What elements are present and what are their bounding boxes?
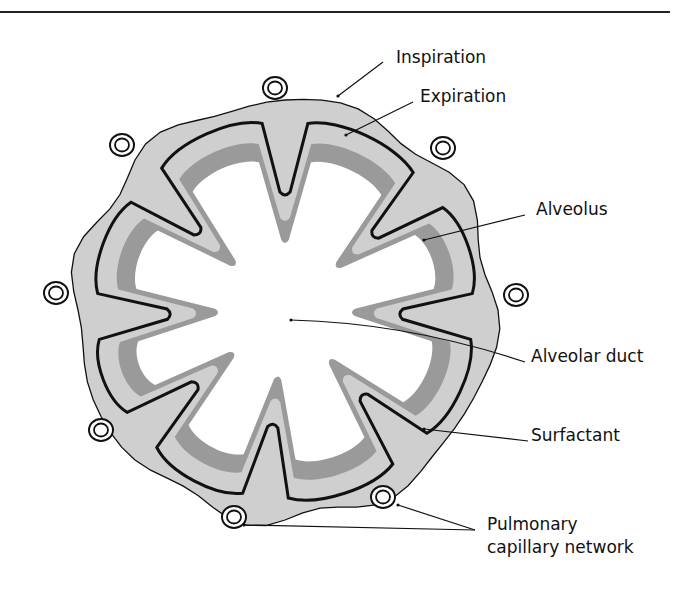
leader-dot-inspiration xyxy=(336,94,339,97)
capillary-3 xyxy=(431,137,455,159)
alveolar-diagram: Inspiration Expiration Alveolus Alveolar… xyxy=(0,0,683,602)
capillary-4 xyxy=(44,282,68,304)
leader-pulmonary-capillary-network-1 xyxy=(398,505,475,530)
leader-dot-alveolus xyxy=(422,238,425,241)
capillary-2 xyxy=(110,134,134,156)
label-expiration: Expiration xyxy=(420,86,506,106)
capillary-7 xyxy=(371,486,395,508)
label-inspiration: Inspiration xyxy=(396,47,486,67)
capillary-8 xyxy=(222,506,246,528)
label-capillary-network: capillary network xyxy=(487,537,634,557)
leader-dot-pulmonary-capillary-network-2 xyxy=(242,523,245,526)
leader-pulmonary-capillary-network-2 xyxy=(244,525,475,530)
alveolus-structure xyxy=(71,99,499,525)
leader-dot-pulmonary-capillary-network-1 xyxy=(396,503,399,506)
label-pulmonary: Pulmonary xyxy=(487,514,578,534)
leader-dot-surfactant xyxy=(422,427,425,430)
label-alveolar-duct: Alveolar duct xyxy=(531,346,644,366)
leader-inspiration xyxy=(338,62,383,96)
capillary-6 xyxy=(89,419,113,441)
leader-dot-expiration xyxy=(344,133,347,136)
label-surfactant: Surfactant xyxy=(531,425,620,445)
leader-dot-alveolar-duct xyxy=(289,318,292,321)
capillary-5 xyxy=(504,284,528,306)
capillary-1 xyxy=(263,77,287,99)
label-alveolus: Alveolus xyxy=(536,199,608,219)
